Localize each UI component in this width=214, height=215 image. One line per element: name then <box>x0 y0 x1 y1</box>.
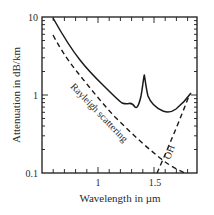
x-tick-label-1: 1 <box>96 177 101 188</box>
oh-label: OH <box>162 143 177 160</box>
y-axis-title: Attenuation in dB/km <box>10 47 22 143</box>
rayleigh-scattering-label: Rayleigh scattering <box>69 81 131 144</box>
x-tick-label-1.5: 1.5 <box>149 177 162 188</box>
attenuation-chart: 10 1 0.1 1 1.5 Attenuation in dB/km Wave… <box>0 0 214 215</box>
y-tick-label-1: 1 <box>33 90 38 101</box>
y-tick-label-0.1: 0.1 <box>26 168 39 179</box>
oh-absorption-curve <box>157 96 189 173</box>
total-attenuation-curve <box>53 18 191 112</box>
x-axis-title: Wavelength in µm <box>79 192 161 204</box>
y-tick-label-10: 10 <box>28 12 38 23</box>
